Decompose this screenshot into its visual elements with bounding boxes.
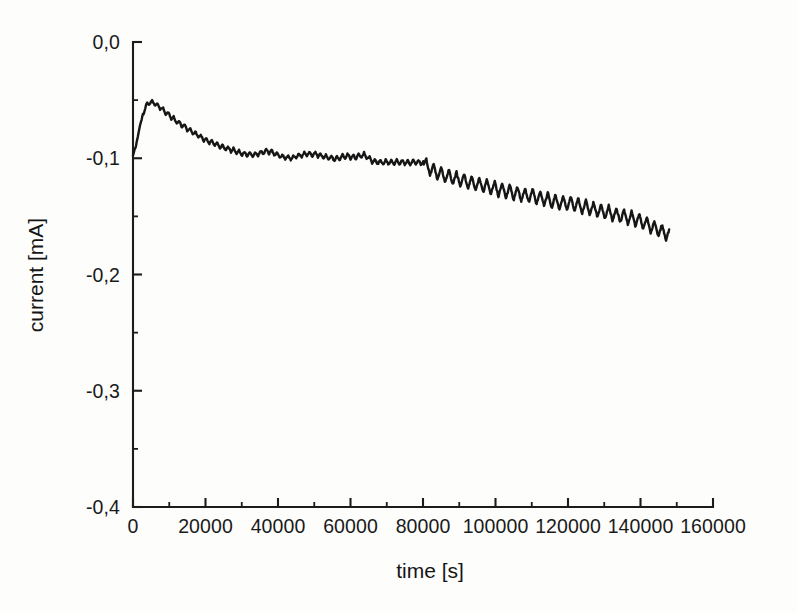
x-axis-label: time [s] <box>396 559 464 582</box>
y-tick-label: -0,4 <box>86 496 120 518</box>
axes-group: 0200004000060000800001000001200001400001… <box>86 31 746 537</box>
chart-figure: 0200004000060000800001000001200001400001… <box>0 0 797 612</box>
current-series-line <box>133 100 669 241</box>
x-tick-label: 120000 <box>535 515 601 537</box>
data-group <box>133 100 669 241</box>
x-tick-label: 140000 <box>608 515 674 537</box>
x-tick-label: 40000 <box>251 515 306 537</box>
x-tick-label: 0 <box>128 515 139 537</box>
x-tick-label: 60000 <box>323 515 378 537</box>
x-tick-label: 160000 <box>680 515 746 537</box>
x-axis-tick-labels: 0200004000060000800001000001200001400001… <box>128 515 746 537</box>
y-tick-label: -0,3 <box>86 380 120 402</box>
y-axis-label: current [mA] <box>24 218 47 332</box>
y-tick-label: -0,2 <box>86 264 120 286</box>
x-tick-label: 20000 <box>178 515 233 537</box>
y-axis-tick-labels: 0,0-0,1-0,2-0,3-0,4 <box>86 31 120 518</box>
y-tick-label: 0,0 <box>93 31 120 53</box>
y-axis-ticks <box>133 42 142 507</box>
x-tick-label: 100000 <box>463 515 529 537</box>
y-tick-label: -0,1 <box>86 147 120 169</box>
x-tick-label: 80000 <box>396 515 451 537</box>
current-vs-time-plot: 0200004000060000800001000001200001400001… <box>0 0 797 612</box>
x-axis-ticks <box>133 498 713 507</box>
